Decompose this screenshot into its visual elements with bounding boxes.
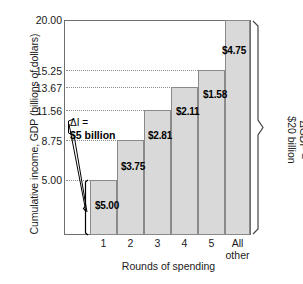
y-axis-title: Cumulative income, GDP (billions of doll… [28,14,40,254]
bar-label-round-2: $3.75 [121,161,145,172]
bar-label-round-1: $5.00 [95,200,119,211]
bar-label-round-3: $2.81 [148,130,172,141]
x-tick-label-all-other: All other [218,238,258,261]
x-axis-title: Rounds of spending [0,260,303,272]
delta-i-annotation-line1: ΔI = [70,117,116,129]
bar-label-round-5: $1.58 [203,89,227,100]
y-tick-label-11-56: 11.56 [22,106,62,116]
y-tick-label-5-00: 5.00 [22,175,62,185]
y-tick-label-15-25: 15.25 [22,66,62,76]
bar-label-all-other: $4.75 [222,45,246,56]
y-tick-label-13-67: 13.67 [22,83,62,93]
y-tick-label-20-00: 20.00 [22,15,62,25]
delta-gdp-annotation-line1: ΔGDP = [298,121,303,160]
delta-gdp-annotation: ΔGDP = $20 billion [286,80,303,200]
y-tick-label-8-75: 8.75 [22,136,62,146]
delta-gdp-brace-icon [253,21,263,234]
delta-i-annotation-line2: $5 billion [70,129,116,141]
bar-round-3[interactable] [144,110,171,235]
delta-i-annotation: ΔI = $5 billion [70,117,116,141]
delta-gdp-annotation-line2: $20 billion [286,116,298,163]
bar-label-round-4: $2.11 [176,106,199,117]
chart-figure: Cumulative income, GDP (billions of doll… [0,0,303,284]
bar-round-2[interactable] [117,140,144,235]
x-tick-label-all-other-line1: All [218,238,258,250]
